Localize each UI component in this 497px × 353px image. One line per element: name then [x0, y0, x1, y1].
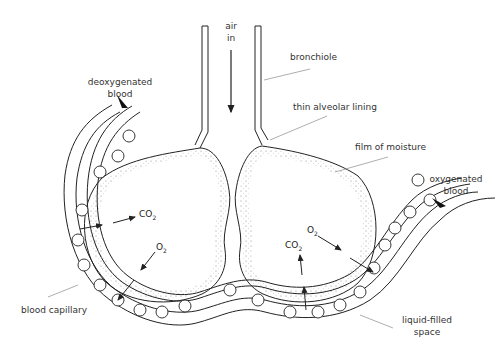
right-co2-label: CO2 [285, 240, 302, 252]
air-label-line2: in [222, 32, 240, 44]
moisture-leader [335, 157, 388, 172]
oxygenated-line2: blood [425, 185, 487, 197]
left-o2-label: O2 [156, 242, 167, 254]
blood-capillary-label: blood capillary [21, 304, 87, 316]
deoxygenated-blood-label: deoxygenated blood [85, 76, 155, 100]
right-alveolus [235, 146, 376, 302]
subscript: 2 [314, 230, 318, 237]
liquid-filled-line2: space [393, 326, 461, 338]
thin-alveolar-lining-label: thin alveolar lining [293, 101, 377, 113]
deoxygenated-line1: deoxygenated [85, 76, 155, 88]
liquid-filled-line1: liquid-filled [393, 314, 461, 326]
subscript: 2 [152, 214, 156, 221]
capillary-leader [48, 285, 78, 297]
subscript: 2 [163, 247, 167, 254]
oxygenated-blood-label: oxygenated blood [425, 173, 487, 197]
deoxygenated-line2: blood [85, 88, 155, 100]
liquid-filled-space-label: liquid-filled space [393, 314, 461, 338]
bronchiole-label: bronchiole [290, 51, 337, 63]
right-o2-label: O2 [307, 225, 318, 237]
co2-text: CO [139, 209, 152, 219]
air-label-line1: air [222, 20, 240, 32]
air-in-label: air in [222, 20, 240, 44]
subscript: 2 [298, 245, 302, 252]
lining-leader [270, 116, 327, 140]
liquid-leader [360, 315, 393, 328]
bronchiole-leader [264, 69, 310, 80]
co2-text: CO [285, 240, 298, 250]
left-co2-label: CO2 [139, 209, 156, 221]
oxygenated-line1: oxygenated [425, 173, 487, 185]
alveoli-diagram [0, 0, 497, 353]
film-of-moisture-label: film of moisture [355, 141, 426, 153]
